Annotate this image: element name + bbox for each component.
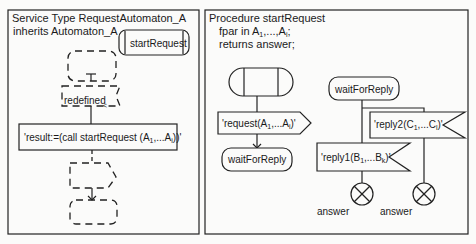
- request-output-text: 'request(A1,...Ai)': [222, 118, 296, 130]
- reply2-text: 'reply2(C1,...Cl)': [374, 119, 443, 131]
- panel-inherits: inherits Automaton_A: [13, 25, 118, 37]
- procedure-fpar: fpar in A1,...,Ai;: [219, 25, 291, 38]
- procedure-returns: returns answer;: [219, 38, 295, 50]
- task-text: 'result:=(call startRequest (A1,...Ai))': [24, 132, 182, 144]
- procedure-panel: Procedure startRequest fpar in A1,...,Ai…: [205, 10, 468, 234]
- panel-title: Service Type RequestAutomaton_A: [12, 12, 187, 24]
- procedure-title: Procedure startRequest: [209, 12, 325, 24]
- request-output-symbol[interactable]: 'request(A1,...Ai)': [218, 112, 311, 134]
- service-type-panel: Service Type RequestAutomaton_A inherits…: [8, 10, 199, 234]
- call-task-box[interactable]: 'result:=(call startRequest (A1,...Ai))': [19, 124, 182, 150]
- procedure-start-symbol: [229, 68, 293, 96]
- wait-for-reply-state-right[interactable]: waitForReply: [329, 77, 399, 100]
- start-request-symbol[interactable]: startRequest: [119, 30, 189, 55]
- start-state-label: startRequest: [130, 38, 187, 49]
- state-label: waitForReply: [334, 84, 393, 95]
- return-label: answer: [380, 206, 413, 217]
- reply1-text: 'reply1(B1,...Bk)': [321, 152, 391, 164]
- state-label: waitForReply: [227, 154, 286, 165]
- return-label: answer: [317, 206, 350, 217]
- redefined-marker: <: [103, 102, 107, 109]
- redefined-label: redefined: [64, 95, 106, 106]
- wait-for-reply-state-left[interactable]: waitForReply: [222, 148, 292, 171]
